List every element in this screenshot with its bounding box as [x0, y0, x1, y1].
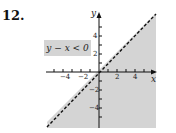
x-axis-label: x — [151, 74, 156, 84]
y-tick-label: −2 — [89, 86, 99, 94]
x-tick-label: −4 — [60, 73, 70, 81]
y-axis-label: y — [91, 8, 96, 18]
inequality-graph — [0, 0, 176, 133]
x-tick-label: 2 — [115, 73, 119, 81]
y-tick-label: 4 — [93, 32, 97, 40]
y-tick-label: 2 — [93, 50, 97, 58]
x-tick-label: −2 — [78, 73, 88, 81]
x-tick-label: 4 — [133, 73, 137, 81]
y-axis-arrow-icon — [97, 12, 102, 18]
y-tick-label: −4 — [89, 104, 99, 112]
inequality-label: y − x < 0 — [44, 40, 91, 56]
